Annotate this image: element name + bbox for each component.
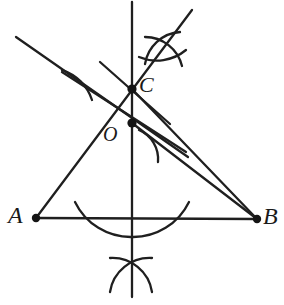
vertex-point-a	[32, 214, 40, 222]
vertex-label-b: B	[263, 204, 278, 228]
side-ab	[36, 218, 257, 219]
geometry-figure: A B C O	[0, 0, 284, 305]
vertex-point-c	[127, 84, 136, 93]
vertex-point-b	[253, 215, 261, 223]
geometry-canvas	[0, 0, 284, 305]
vertex-label-c: C	[139, 74, 154, 96]
vertex-label-a: A	[8, 203, 23, 227]
vertex-point-o	[127, 118, 136, 127]
vertex-label-o: O	[103, 124, 117, 144]
